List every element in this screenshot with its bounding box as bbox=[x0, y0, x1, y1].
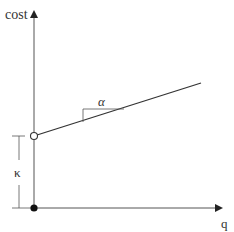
kappa-label: κ bbox=[14, 165, 21, 180]
origin-filled-point bbox=[30, 204, 37, 211]
cost-diagram: cost q α κ bbox=[0, 0, 234, 232]
intercept-open-point bbox=[31, 133, 38, 140]
y-axis-label: cost bbox=[5, 7, 28, 22]
x-axis-label: q bbox=[221, 216, 228, 231]
slope-label: α bbox=[98, 94, 106, 109]
slope-marker bbox=[83, 109, 124, 122]
